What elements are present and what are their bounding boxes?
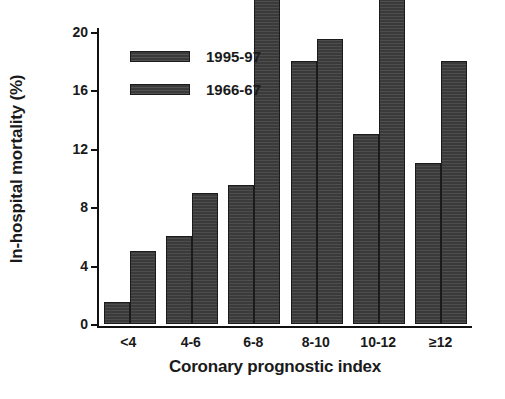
y-axis-tick-label: 16 [72, 82, 88, 98]
legend-swatch [130, 84, 190, 95]
x-axis-tick-label: 8-10 [285, 334, 348, 350]
bar [441, 61, 467, 324]
chart-figure: In-hospital mortality (%) 048121620 <44-… [0, 0, 505, 399]
legend-label: 1995-97 [206, 48, 261, 65]
bar [317, 39, 343, 324]
bar [228, 185, 254, 324]
y-axis-tick-label: 20 [72, 24, 88, 40]
bar [130, 251, 156, 324]
bar [379, 0, 405, 324]
x-axis-tick-label: <4 [97, 334, 160, 350]
bar-group [415, 28, 467, 324]
y-axis-tick-mark [91, 207, 98, 209]
x-axis-tick-label: ≥12 [410, 334, 473, 350]
chart-legend: 1995-971966-67 [130, 48, 261, 98]
y-axis-title: In-hospital mortality (%) [2, 4, 32, 334]
y-axis-tick-mark [91, 32, 98, 34]
y-axis-tick-label: 8 [80, 199, 88, 215]
legend-entry: 1966-67 [130, 81, 261, 98]
bar [166, 236, 192, 324]
legend-swatch [130, 51, 190, 62]
bar [291, 61, 317, 324]
x-axis-tick-label: 4-6 [160, 334, 223, 350]
y-axis-tick-label: 0 [80, 316, 88, 332]
x-axis-tick-label: 6-8 [222, 334, 285, 350]
legend-label: 1966-67 [206, 81, 261, 98]
x-axis-tick-label: 10-12 [347, 334, 410, 350]
y-axis-tick-mark [91, 266, 98, 268]
legend-entry: 1995-97 [130, 48, 261, 65]
bar [353, 134, 379, 324]
y-axis-tick-label: 12 [72, 141, 88, 157]
bar-group [291, 28, 343, 324]
y-axis-tick-mark [91, 324, 98, 326]
y-axis-tick-mark [91, 90, 98, 92]
x-axis-line [97, 326, 472, 328]
y-axis-tick-label: 4 [80, 258, 88, 274]
x-axis-tick-labels: <44-66-88-1010-12≥12 [97, 331, 472, 353]
x-axis-title: Coronary prognostic index [60, 357, 490, 377]
y-axis-tick-mark [91, 149, 98, 151]
bar-group [353, 28, 405, 324]
bar [104, 302, 130, 324]
bar [415, 163, 441, 324]
bar [192, 193, 218, 324]
